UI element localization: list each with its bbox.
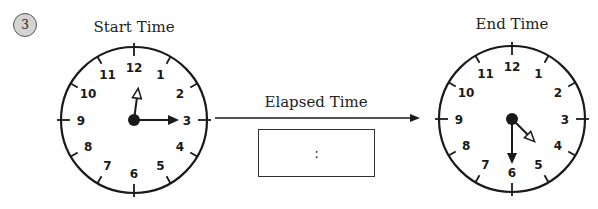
clock-numeral: 9	[77, 114, 85, 128]
clock-numeral: 3	[183, 114, 191, 128]
clock-numeral: 3	[561, 113, 569, 127]
clock-numeral: 2	[554, 86, 562, 100]
clock-numeral: 11	[99, 68, 116, 82]
clock-numeral: 12	[126, 61, 143, 75]
clock-numeral: 2	[176, 87, 184, 101]
clock-numeral: 5	[534, 158, 542, 172]
clock-numeral: 10	[458, 86, 475, 100]
clock-numeral: 8	[84, 140, 92, 154]
end-clock: 121234567891011	[435, 42, 589, 196]
clock-numeral: 5	[156, 159, 164, 173]
clock-numeral: 4	[554, 139, 562, 153]
clock-numeral: 10	[80, 87, 97, 101]
clock-center-dot	[128, 114, 140, 126]
clock-numeral: 7	[481, 158, 489, 172]
clock-numeral: 6	[508, 166, 516, 180]
elapsed-time-answer-box[interactable]: :	[258, 129, 375, 177]
clock-numeral: 12	[504, 60, 521, 74]
clock-numeral: 7	[103, 159, 111, 173]
elapsed-arrow-icon	[215, 114, 420, 122]
clock-numeral: 1	[534, 67, 542, 81]
clock-numeral: 8	[462, 139, 470, 153]
clock-numeral: 6	[130, 167, 138, 181]
clock-numeral: 11	[477, 67, 494, 81]
clock-numeral: 4	[176, 140, 184, 154]
clock-numeral: 9	[455, 113, 463, 127]
worksheet-graphics: 121234567891011 121234567891011	[0, 0, 598, 209]
start-clock: 121234567891011	[57, 43, 211, 197]
clock-numeral: 1	[156, 68, 164, 82]
clock-center-dot	[506, 113, 518, 125]
